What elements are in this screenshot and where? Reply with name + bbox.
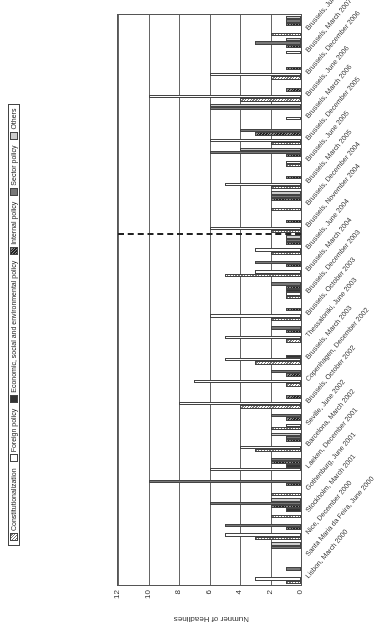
bar	[271, 498, 302, 501]
legend-swatch-icon	[10, 188, 18, 196]
bar	[271, 192, 302, 195]
legend-item: Sector policy	[10, 146, 18, 196]
bar	[271, 282, 302, 285]
bar	[286, 264, 301, 267]
bar	[286, 176, 301, 179]
bar	[286, 45, 301, 48]
bar	[286, 383, 301, 386]
bar	[286, 567, 301, 570]
bar	[225, 524, 301, 527]
bar	[240, 129, 301, 132]
legend-item: Constitutionalization	[10, 468, 18, 541]
bar	[286, 464, 301, 467]
legend-swatch-icon	[10, 247, 18, 255]
y-tick-label: 0	[295, 590, 304, 606]
gridline	[118, 15, 119, 585]
bar	[179, 402, 301, 405]
bar	[210, 468, 302, 471]
bar	[286, 51, 301, 54]
bar	[271, 326, 302, 329]
legend-swatch-icon	[10, 454, 18, 462]
bar	[271, 195, 302, 198]
y-tick-label: 4	[234, 590, 243, 606]
plot-area	[117, 14, 302, 586]
bar	[286, 161, 301, 164]
bar	[286, 16, 301, 19]
bar	[286, 330, 301, 333]
bar	[271, 542, 302, 545]
bar	[271, 433, 302, 436]
bar	[286, 239, 301, 242]
bar	[271, 142, 302, 145]
bar	[286, 23, 301, 26]
bar	[271, 493, 302, 496]
bar	[286, 417, 301, 420]
bar	[255, 261, 301, 264]
legend-label: Sector policy	[10, 146, 17, 186]
bar	[286, 424, 301, 427]
bar	[271, 33, 302, 36]
bar	[225, 183, 301, 186]
bar	[286, 508, 301, 511]
bar	[271, 370, 302, 373]
bar	[210, 227, 302, 230]
bar	[255, 449, 301, 452]
bar	[271, 414, 302, 417]
bar	[225, 358, 301, 361]
bar	[255, 132, 301, 135]
dashed-divider-line	[118, 233, 301, 235]
bar	[286, 292, 301, 295]
legend-item: Others	[10, 109, 18, 140]
bar	[194, 380, 301, 383]
legend-label: Others	[10, 109, 17, 130]
y-tick-label: 8	[173, 590, 182, 606]
bar	[240, 446, 301, 449]
bar	[255, 249, 301, 252]
bar	[271, 76, 302, 79]
bar	[286, 581, 301, 584]
legend-swatch-icon	[10, 395, 18, 403]
bar	[271, 546, 302, 549]
gridline	[149, 15, 150, 585]
bar	[271, 458, 302, 461]
bar	[149, 95, 302, 98]
bar	[271, 427, 302, 430]
bar	[255, 41, 301, 44]
bar	[210, 502, 302, 505]
y-tick-label: 2	[265, 590, 274, 606]
bar	[286, 527, 301, 530]
bar	[240, 98, 301, 101]
legend-item: Economic, social and environmental polic…	[10, 261, 18, 403]
bar	[286, 235, 301, 238]
legend-label: Foreign policy	[10, 409, 17, 453]
bar	[286, 289, 301, 292]
bar	[255, 577, 301, 580]
legend-label: Internal policy	[10, 202, 17, 245]
bar	[286, 88, 301, 91]
bar	[286, 164, 301, 167]
bar	[210, 73, 302, 76]
bar	[286, 117, 301, 120]
bar	[271, 318, 302, 321]
bar	[225, 336, 301, 339]
chart-legend: ConstitutionalizationForeign policyEcono…	[8, 104, 20, 546]
bar	[286, 395, 301, 398]
bar	[240, 405, 301, 408]
bar	[286, 483, 301, 486]
legend-label: Economic, social and environmental polic…	[10, 261, 17, 393]
y-axis-label: Numner of Headlines	[173, 615, 248, 624]
y-tick-label: 10	[143, 590, 152, 606]
bar	[286, 308, 301, 311]
bar	[225, 534, 301, 537]
bar	[255, 537, 301, 540]
bar	[286, 296, 301, 299]
y-tick-label: 12	[112, 590, 121, 606]
legend-item: Internal policy	[10, 202, 18, 255]
bar	[286, 67, 301, 70]
bar	[210, 139, 302, 142]
bar	[210, 107, 302, 110]
legend-label: Constitutionalization	[10, 468, 17, 531]
legend-item: Foreign policy	[10, 409, 18, 463]
bar	[149, 480, 302, 483]
